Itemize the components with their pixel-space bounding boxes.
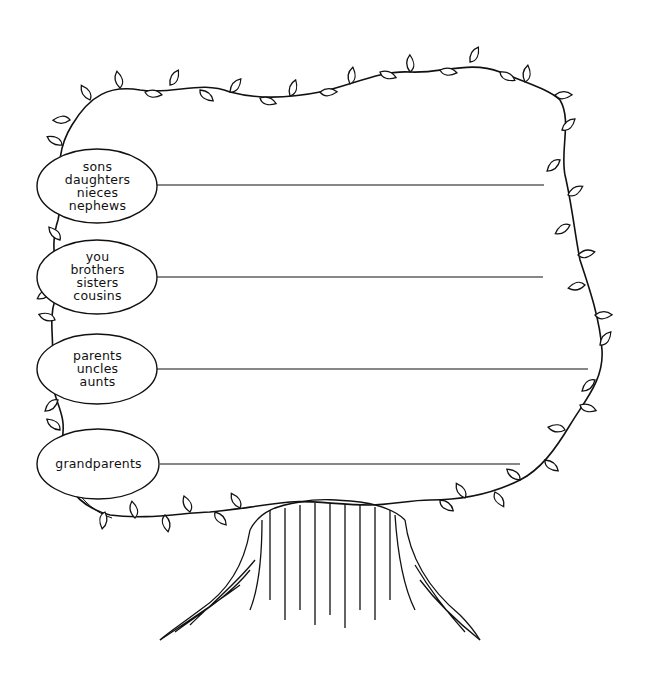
generation-label-self: you brothers sisters cousins	[40, 250, 155, 302]
family-tree-drawing	[0, 0, 666, 686]
write-in-lines	[157, 185, 588, 464]
tree-trunk	[160, 500, 480, 640]
generation-label-grandparents: grandparents	[40, 457, 157, 470]
generation-label-children: sons daughters nieces nephews	[40, 160, 155, 212]
generation-label-parents: parents uncles aunts	[40, 349, 155, 388]
